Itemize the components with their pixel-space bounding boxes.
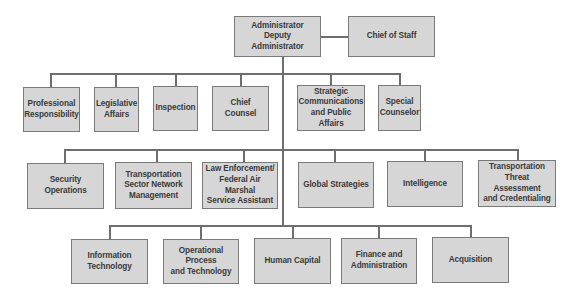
org-box-transportation-threat-assessment: Transportation Threat Assessment and Cre… (478, 160, 556, 207)
tier3-drop (200, 225, 202, 239)
org-box-chief-counsel: Chief Counsel (212, 86, 269, 131)
org-box-operational-process-technology: Operational Process and Technology (163, 239, 239, 284)
tier2-drop (156, 149, 158, 162)
tier2-drop (334, 149, 336, 162)
org-box-strategic-communications: Strategic Communications and Public Affa… (297, 85, 365, 131)
org-box-human-capital: Human Capital (254, 238, 331, 284)
tier2-drop (424, 149, 426, 161)
admin-to-chief-of-staff-connector (320, 36, 348, 38)
tier2-bus-line (64, 149, 517, 151)
org-box-chief-of-staff: Chief of Staff (348, 16, 435, 57)
org-box-law-enforcement-fams: Law Enforcement/ Federal Air Marshal Ser… (202, 162, 278, 209)
tier1-drop (399, 73, 401, 85)
tier1-drop (175, 73, 177, 86)
tier3-drop (292, 225, 294, 238)
tier1-drop (50, 73, 52, 87)
tier2-drop (64, 149, 66, 163)
tier3-drop (378, 225, 380, 238)
org-box-special-counselor: Special Counselor (378, 85, 421, 131)
tier1-drop (240, 73, 242, 86)
tier1-bus-line (50, 73, 400, 75)
org-box-intelligence: Intelligence (387, 161, 463, 207)
org-box-global-strategies: Global Strategies (298, 162, 374, 208)
tier3-drop (470, 225, 472, 237)
org-box-acquisition: Acquisition (432, 237, 509, 283)
tier1-drop (330, 73, 332, 85)
org-box-transportation-sector-network-management: Transportation Sector Network Management (115, 162, 192, 209)
org-box-security-operations: Security Operations (27, 163, 104, 209)
tier3-bus-line (109, 225, 470, 227)
org-box-professional-responsibility: Professional Responsibility (23, 87, 80, 132)
org-box-administrator: Administrator Deputy Administrator (234, 16, 321, 57)
tier1-drop (115, 73, 117, 87)
org-box-inspection: Inspection (153, 86, 198, 131)
org-box-information-technology: Information Technology (71, 239, 148, 284)
main-trunk-line (282, 56, 284, 226)
org-box-legislative-affairs: Legislative Affairs (94, 87, 139, 132)
tier2-drop (243, 149, 245, 162)
tier3-drop (109, 225, 111, 239)
tier2-drop (517, 149, 519, 160)
org-box-finance-administration: Finance and Administration (341, 238, 417, 284)
